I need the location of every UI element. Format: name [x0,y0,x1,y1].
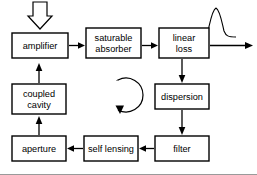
pump-arrow-icon [28,2,52,29]
output-arrow-icon [210,42,253,49]
block-saturable-absorber[interactable]: saturable absorber [86,28,141,58]
block-filter[interactable]: filter [155,136,209,161]
block-saturable-absorber-label-line2: absorber [95,44,131,54]
connector-aperture-to-coupled-cavity [36,116,43,135]
block-coupled-cavity-label-line2: cavity [27,100,51,110]
block-aperture[interactable]: aperture [12,136,66,161]
connector-saturable-absorber-to-linear-loss [142,42,158,49]
block-filter-label: filter [173,144,190,154]
connector-amplifier-to-saturable-absorber [69,42,85,49]
connector-dispersion-to-filter [179,110,186,135]
connector-coupled-cavity-to-amplifier [36,63,43,83]
block-amplifier[interactable]: amplifier [12,33,68,58]
circulation-loop-icon [116,78,144,114]
diagram-canvas: amplifier saturable absorber linear loss… [0,0,257,175]
block-dispersion[interactable]: dispersion [155,84,209,109]
connector-self-lensing-to-aperture [67,145,83,152]
block-coupled-cavity[interactable]: coupled cavity [12,84,66,114]
block-saturable-absorber-label-line1: saturable [95,33,133,43]
block-coupled-cavity-label-line1: coupled [23,89,55,99]
block-self-lensing-label: self lensing [88,144,134,154]
block-dispersion-label: dispersion [161,92,203,102]
block-diagram: amplifier saturable absorber linear loss… [0,0,257,175]
connector-linear-loss-to-dispersion [179,59,186,83]
block-linear-loss[interactable]: linear loss [159,28,209,58]
block-amplifier-label: amplifier [23,41,58,51]
block-aperture-label: aperture [22,144,56,154]
block-linear-loss-label-line2: loss [176,44,193,54]
block-linear-loss-label-line1: linear [173,33,195,43]
connector-filter-to-self-lensing [139,145,154,152]
block-self-lensing[interactable]: self lensing [84,136,138,161]
